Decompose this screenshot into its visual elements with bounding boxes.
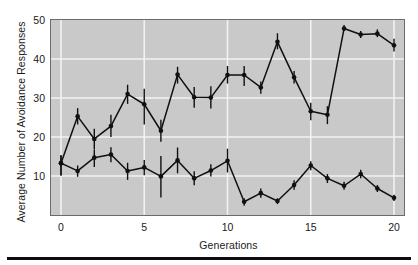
data-point	[259, 191, 264, 196]
data-point	[192, 95, 197, 100]
y-tick-label: 30	[26, 92, 45, 104]
footer-rule	[7, 257, 411, 260]
data-point	[125, 92, 130, 97]
data-point	[175, 158, 180, 163]
data-point	[75, 169, 80, 174]
data-point	[392, 43, 397, 48]
data-point	[75, 114, 80, 119]
data-point	[358, 32, 363, 37]
y-tick-label: 20	[26, 131, 45, 143]
plot-canvas	[51, 20, 404, 215]
data-point	[192, 176, 197, 181]
data-point	[358, 172, 363, 177]
x-axis-title: Generations	[47, 239, 410, 251]
data-point	[59, 161, 64, 166]
data-point	[109, 124, 114, 129]
y-tick-label: 40	[26, 53, 45, 65]
data-point	[325, 176, 330, 181]
data-point	[209, 95, 214, 100]
data-point	[308, 109, 313, 114]
data-point	[159, 128, 164, 133]
data-point	[242, 73, 247, 78]
y-tick-label: 50	[26, 14, 45, 26]
data-point	[275, 40, 280, 45]
data-point	[92, 155, 97, 160]
data-point	[342, 26, 347, 31]
data-point	[292, 183, 297, 188]
data-point	[159, 174, 164, 179]
data-point	[109, 152, 114, 157]
x-tick-label: 20	[388, 221, 400, 233]
x-axis-tick-labels: 05101520	[0, 221, 418, 237]
x-tick-label: 10	[222, 221, 234, 233]
y-tick-label: 10	[26, 170, 45, 182]
data-point	[209, 168, 214, 173]
x-tick-label: 0	[58, 221, 64, 233]
plot-area	[50, 19, 405, 216]
data-point	[392, 196, 397, 201]
data-point	[142, 165, 147, 170]
data-point	[142, 102, 147, 107]
data-point	[225, 158, 230, 163]
x-tick-label: 15	[305, 221, 317, 233]
data-point	[342, 183, 347, 188]
data-point	[375, 31, 380, 36]
data-point	[308, 163, 313, 168]
data-point	[325, 112, 330, 117]
x-tick-label: 5	[141, 221, 147, 233]
data-point	[125, 169, 130, 174]
data-point	[292, 75, 297, 80]
data-point	[259, 85, 264, 90]
data-point	[275, 199, 280, 204]
data-point	[175, 72, 180, 77]
data-point	[92, 137, 97, 142]
data-point	[375, 186, 380, 191]
figure: Average Number of Avoidance Responses 10…	[0, 0, 418, 265]
data-point	[242, 199, 247, 204]
data-point	[225, 73, 230, 78]
